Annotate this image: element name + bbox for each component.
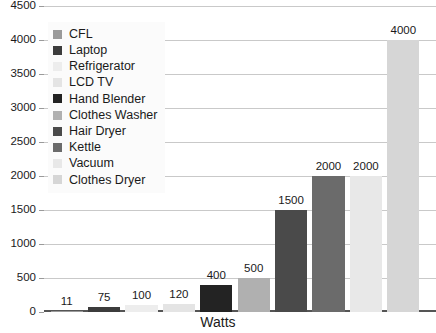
legend-item: Hair Dryer: [53, 123, 157, 139]
y-axis-tick-label: 2000: [0, 170, 36, 182]
y-axis-tick-label: 1000: [0, 238, 36, 250]
bar: [163, 304, 195, 312]
legend-item: CFL: [53, 26, 157, 42]
y-axis-tick-label: 3000: [0, 102, 36, 114]
bar: [312, 176, 344, 312]
legend-item-label: Kettle: [69, 141, 101, 154]
y-axis-tick-label: 4500: [0, 0, 36, 12]
bar: [125, 305, 157, 312]
legend-item-label: Laptop: [69, 44, 107, 57]
legend-item: Clothes Washer: [53, 107, 157, 123]
legend-item: Kettle: [53, 139, 157, 155]
legend-item: Clothes Dryer: [53, 172, 157, 188]
bar-value-label: 1500: [269, 195, 313, 207]
legend-swatch-icon: [53, 30, 62, 39]
legend-item: Refrigerator: [53, 58, 157, 74]
legend-item: Vacuum: [53, 156, 157, 172]
y-axis-tick-label: 2500: [0, 136, 36, 148]
bar: [200, 285, 232, 312]
legend-swatch-icon: [53, 175, 62, 184]
legend-swatch-icon: [53, 143, 62, 152]
bar-chart-figure: 450040003500300025002000150010005000 117…: [0, 0, 436, 333]
legend-swatch-icon: [53, 46, 62, 55]
bar-value-label: 500: [232, 263, 276, 275]
legend-swatch-icon: [53, 159, 62, 168]
bar: [51, 311, 83, 313]
bar-value-label: 4000: [381, 25, 425, 37]
legend-item: LCD TV: [53, 75, 157, 91]
legend-swatch-icon: [53, 94, 62, 103]
legend-item-label: Hand Blender: [69, 93, 145, 106]
x-axis-title: Watts: [0, 314, 436, 330]
gridline: [44, 6, 436, 7]
legend-item-label: LCD TV: [69, 76, 113, 89]
y-axis-tick-label: 1500: [0, 204, 36, 216]
legend-swatch-icon: [53, 78, 62, 87]
legend-item: Hand Blender: [53, 91, 157, 107]
legend-item-label: Clothes Washer: [69, 109, 157, 122]
legend-item: Laptop: [53, 42, 157, 58]
bar-value-label: 120: [157, 289, 201, 301]
legend-item-label: CFL: [69, 28, 93, 41]
legend-swatch-icon: [53, 62, 62, 71]
bar: [350, 176, 382, 312]
bar-value-label: 2000: [344, 161, 388, 173]
legend: CFLLaptopRefrigeratorLCD TVHand BlenderC…: [48, 22, 165, 193]
bar: [387, 40, 419, 312]
bar: [88, 307, 120, 312]
bar: [238, 278, 270, 312]
y-axis-tick-mark: [39, 312, 44, 313]
bar: [275, 210, 307, 312]
y-axis-tick-label: 500: [0, 272, 36, 284]
legend-item-label: Vacuum: [69, 157, 114, 170]
legend-item-label: Hair Dryer: [69, 125, 126, 138]
y-axis-tick-label: 3500: [0, 68, 36, 80]
legend-item-label: Clothes Dryer: [69, 174, 145, 187]
legend-item-label: Refrigerator: [69, 60, 135, 73]
legend-swatch-icon: [53, 127, 62, 136]
legend-swatch-icon: [53, 111, 62, 120]
y-axis-tick-label: 4000: [0, 34, 36, 46]
